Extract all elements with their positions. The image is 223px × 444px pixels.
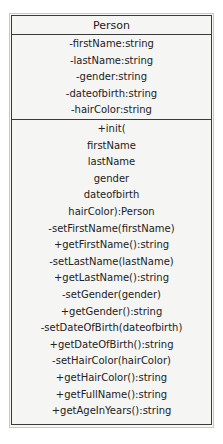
method-get-date-of-birth: +getDateOfBirth():string: [12, 337, 211, 354]
method-init-param-hair-color: hairColor):Person: [12, 204, 211, 221]
attribute-hair-color: -hairColor:string: [12, 102, 211, 119]
method-init-param-first-name: firstName: [12, 138, 211, 155]
attribute-last-name: -lastName:string: [12, 53, 211, 70]
method-init: +init(: [12, 121, 211, 138]
method-set-gender: -setGender(gender): [12, 287, 211, 304]
methods-compartment: +init( firstName lastName gender dateofb…: [12, 120, 211, 420]
method-set-last-name: -setLastName(lastName): [12, 254, 211, 271]
uml-class-person: Person -firstName:string -lastName:strin…: [11, 15, 212, 425]
method-get-full-name: +getFullName():string: [12, 387, 211, 404]
method-get-gender: +getGender():string: [12, 304, 211, 321]
method-init-param-last-name: lastName: [12, 154, 211, 171]
attributes-compartment: -firstName:string -lastName:string -gend…: [12, 35, 211, 120]
attribute-first-name: -firstName:string: [12, 36, 211, 53]
method-get-age-in-years: +getAgeInYears():string: [12, 403, 211, 420]
method-get-hair-color: +getHairColor():string: [12, 370, 211, 387]
attribute-date-of-birth: -dateofbirth:string: [12, 86, 211, 103]
method-get-last-name: +getLastName():string: [12, 270, 211, 287]
method-init-param-date-of-birth: dateofbirth: [12, 187, 211, 204]
method-set-first-name: -setFirstName(firstName): [12, 221, 211, 238]
class-name: Person: [12, 16, 211, 35]
method-set-hair-color: -setHairColor(hairColor): [12, 353, 211, 370]
attribute-gender: -gender:string: [12, 69, 211, 86]
method-init-param-gender: gender: [12, 171, 211, 188]
method-set-date-of-birth: -setDateOfBirth(dateofbirth): [12, 320, 211, 337]
method-get-first-name: +getFirstName():string: [12, 237, 211, 254]
